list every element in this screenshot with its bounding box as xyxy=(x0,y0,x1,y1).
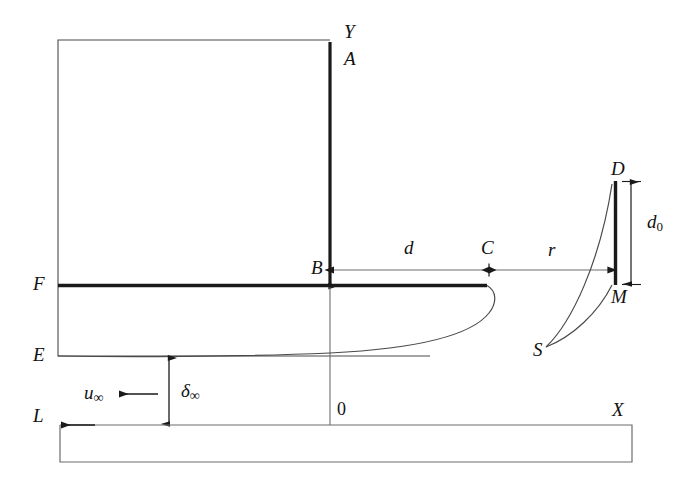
point-label-e: E xyxy=(33,345,45,364)
diagram-vector-layer xyxy=(0,0,696,487)
dimension-label-d0: d0 xyxy=(647,212,663,233)
wall-bar xyxy=(60,425,632,462)
point-label-m: M xyxy=(611,287,627,306)
u-subscript: ∞ xyxy=(94,390,104,405)
point-label-a: A xyxy=(344,49,356,68)
dimension-label-r: r xyxy=(548,240,555,259)
figure-canvas: Y A F E B d C r D M d0 S u∞ δ∞ L 0 X xyxy=(0,0,696,487)
dimension-label-d: d xyxy=(404,238,414,257)
free-stream-velocity-label: u∞ xyxy=(84,383,103,405)
delta-subscript: ∞ xyxy=(190,388,200,403)
d0-dimension xyxy=(622,182,641,285)
point-label-l: L xyxy=(33,406,44,425)
u-base: u xyxy=(84,382,94,403)
point-label-f: F xyxy=(33,274,45,293)
y-axis-label: Y xyxy=(344,22,355,41)
d0-subscript: 0 xyxy=(657,219,664,234)
d0-base: d xyxy=(647,211,657,232)
delta-base: δ xyxy=(181,380,190,401)
point-label-s: S xyxy=(533,340,543,359)
distance-dimension-line xyxy=(333,264,616,277)
x-axis-label: X xyxy=(612,400,624,419)
delta-infinity-label: δ∞ xyxy=(181,381,200,403)
point-label-b: B xyxy=(311,258,323,277)
velocity-profile-curves xyxy=(546,184,612,347)
origin-label: 0 xyxy=(337,400,346,418)
boundary-layer-curve xyxy=(58,286,495,357)
point-label-c: C xyxy=(481,238,494,257)
point-label-d: D xyxy=(611,159,625,178)
control-volume-outline xyxy=(58,40,430,356)
